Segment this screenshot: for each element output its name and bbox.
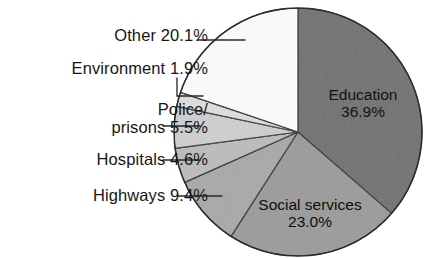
pie-label-education: Education 36.9% xyxy=(311,86,415,120)
pie-label-police-prisons-line1: Police/ xyxy=(28,100,208,118)
pie-label-other: Other 20.1% xyxy=(58,26,208,44)
pie-label-environment: Environment 1.9% xyxy=(6,59,208,77)
pie-label-police-prisons-line2: prisons 5.5% xyxy=(28,118,208,136)
pie-label-hospitals: Hospitals 4.6% xyxy=(22,150,208,168)
pie-label-police-prisons: Police/ prisons 5.5% xyxy=(28,100,208,137)
pie-label-education-line1: Education xyxy=(311,86,415,103)
pie-label-social-services-line2: 23.0% xyxy=(243,213,377,230)
pie-label-highways: Highways 9.4% xyxy=(30,186,208,204)
pie-label-hospitals-text: Hospitals 4.6% xyxy=(97,150,208,168)
pie-label-other-text: Other 20.1% xyxy=(114,26,208,44)
pie-label-environment-text: Environment 1.9% xyxy=(72,59,208,77)
pie-label-education-line2: 36.9% xyxy=(311,103,415,120)
pie-label-social-services-line1: Social services xyxy=(243,196,377,213)
pie-chart: Other 20.1% Environment 1.9% Police/ pri… xyxy=(0,0,425,258)
pie-label-social-services: Social services 23.0% xyxy=(243,196,377,230)
pie-label-highways-text: Highways 9.4% xyxy=(93,186,208,204)
